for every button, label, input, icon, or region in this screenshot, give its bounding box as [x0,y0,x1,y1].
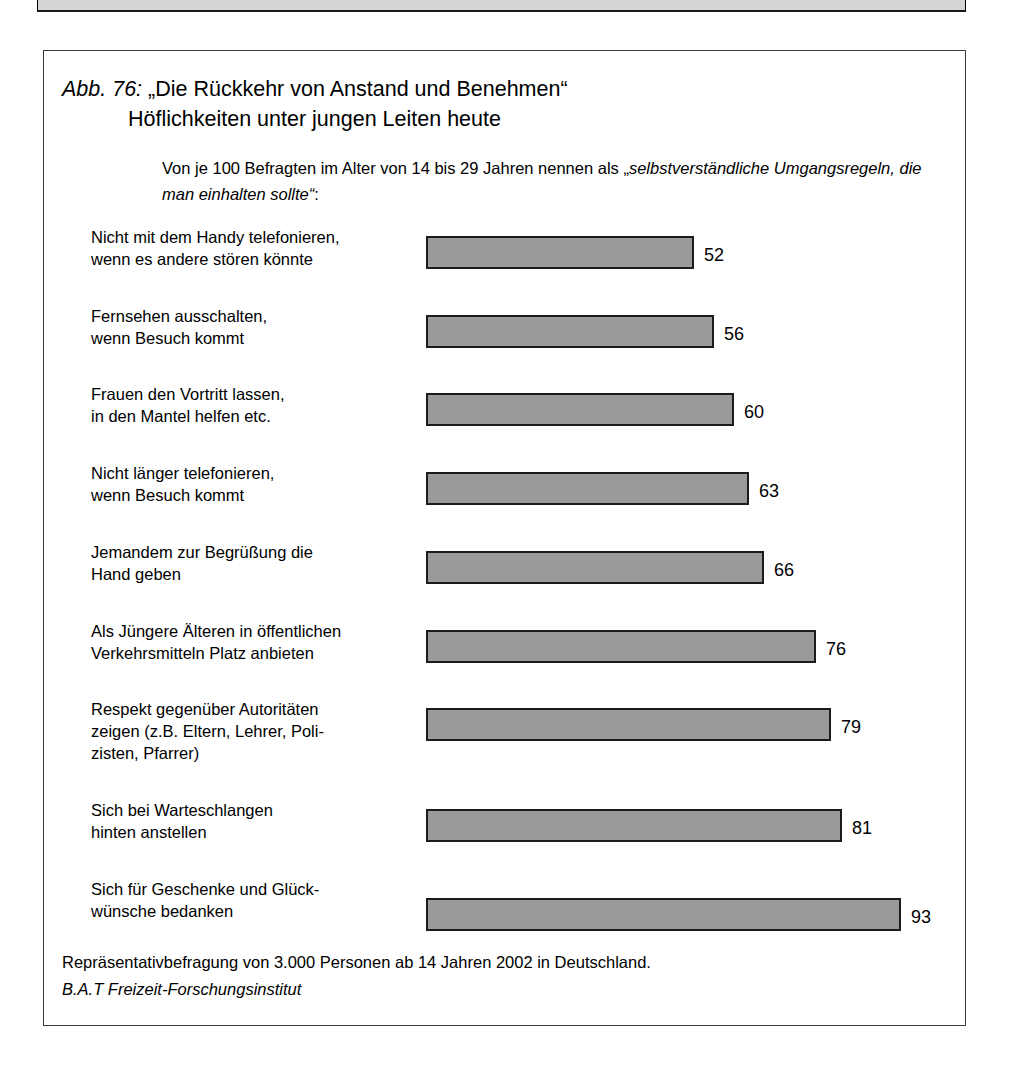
figure-frame: Abb. 76: „Die Rückkehr von Anstand und B… [43,50,966,1026]
subtitle-text-lead: Von je 100 Befragten im Alter von 14 bis… [162,159,629,177]
clipped-top-figure-box [37,0,966,12]
bar [426,393,734,426]
bar [426,809,842,842]
bar-category-label: Respekt gegenüber Autoritäten zeigen (z.… [91,698,431,764]
bar [426,898,901,931]
subtitle-text-tail: : [314,185,319,203]
figure-subtitle: Von je 100 Befragten im Alter von 14 bis… [162,155,922,207]
figure-title-line-2: Höflichkeiten unter jungen Leiten heute [62,104,922,134]
bar-category-label: Frauen den Vortritt lassen, in den Mante… [91,383,431,427]
bar [426,472,749,505]
bar [426,236,694,269]
bar-category-label: Fernsehen ausschalten, wenn Besuch kommt [91,305,431,349]
bar-value-label: 60 [744,403,764,421]
footer-note: Repräsentativbefragung von 3.000 Persone… [62,949,942,976]
bar-category-label: Nicht länger telefonieren, wenn Besuch k… [91,462,431,506]
bar-value-label: 79 [841,718,861,736]
bar [426,630,816,663]
bar-value-label: 81 [852,819,872,837]
bar-value-label: 56 [724,325,744,343]
figure-number: Abb. 76: [62,77,142,101]
bar [426,315,714,348]
bar-category-label: Sich bei Warteschlangen hinten anstellen [91,799,431,843]
bar-category-label: Als Jüngere Älteren in öffentlichen Verk… [91,620,431,664]
figure-title-block: Abb. 76: „Die Rückkehr von Anstand und B… [62,74,922,134]
bar-value-label: 93 [911,908,931,926]
figure-title-line-1: Abb. 76: „Die Rückkehr von Anstand und B… [62,74,922,104]
bar-value-label: 52 [704,246,724,264]
bar [426,551,764,584]
horizontal-bar-chart: Nicht mit dem Handy telefonieren, wenn e… [44,226,965,876]
bar-value-label: 76 [826,640,846,658]
bar-category-label: Sich für Geschenke und Glück- wünsche be… [91,878,431,922]
bar-value-label: 66 [774,561,794,579]
bar-value-label: 63 [759,482,779,500]
footer-source: B.A.T Freizeit-Forschungsinstitut [62,976,942,1003]
figure-footer: Repräsentativbefragung von 3.000 Persone… [62,949,942,1003]
bar-category-label: Jemandem zur Begrüßung die Hand geben [91,541,431,585]
bar-category-label: Nicht mit dem Handy telefonieren, wenn e… [91,226,431,270]
figure-title-main: „Die Rückkehr von Anstand und Benehmen“ [148,77,568,101]
bar [426,708,831,741]
